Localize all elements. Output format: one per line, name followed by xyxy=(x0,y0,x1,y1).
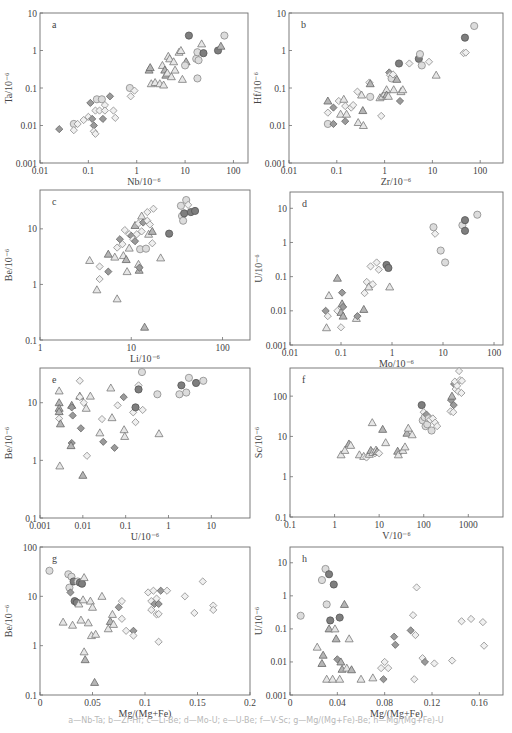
triangle-marker-icon xyxy=(69,621,77,628)
y-tick-label: 10 xyxy=(28,398,38,408)
triangle-marker-icon xyxy=(107,384,115,391)
triangle-marker-icon xyxy=(121,432,129,439)
triangle-marker-icon xyxy=(77,616,85,623)
triangle-marker-icon xyxy=(331,625,339,632)
x-tick-label: 0.1 xyxy=(82,166,94,176)
diamond-marker-icon xyxy=(130,632,137,639)
x-tick-label: 10 xyxy=(428,166,438,176)
diamond-marker-icon xyxy=(412,631,419,638)
y-axis-label: Sc/10⁻⁶ xyxy=(253,426,264,458)
y-tick-label: 0.01 xyxy=(270,657,287,667)
y-tick-label: 10 xyxy=(278,558,288,568)
triangle-marker-icon xyxy=(343,110,351,117)
circle-marker-icon xyxy=(178,382,185,389)
triangle-marker-icon xyxy=(108,414,116,421)
circle-marker-icon xyxy=(191,207,198,214)
diamond-marker-icon xyxy=(100,438,107,445)
data-points xyxy=(56,32,228,137)
diamond-marker-icon xyxy=(378,112,385,119)
triangle-marker-icon xyxy=(96,429,104,436)
diamond-marker-icon xyxy=(110,107,117,114)
y-tick-label: 10 xyxy=(278,204,288,214)
data-points xyxy=(337,367,465,461)
y-tick-label: 0.1 xyxy=(275,513,287,523)
diamond-marker-icon xyxy=(338,289,345,296)
diamond-marker-icon xyxy=(385,665,392,672)
triangle-marker-icon xyxy=(340,95,348,102)
panel-letter: c xyxy=(52,196,57,207)
diamond-marker-icon xyxy=(432,230,439,237)
circle-marker-icon xyxy=(471,22,478,29)
diamond-marker-icon xyxy=(479,619,486,626)
y-tick-label: 1 xyxy=(282,238,287,248)
panel-letter: g xyxy=(52,553,57,564)
triangle-marker-icon xyxy=(379,425,387,432)
panel-b: 0.010.11101000.0010.010.1110Zr/10⁻⁶Hf/10… xyxy=(252,9,503,188)
triangle-marker-icon xyxy=(79,471,87,478)
circle-marker-icon xyxy=(154,391,161,398)
panel-h: 00.040.080.120.160.0010.010.1110Mg/(Mg+F… xyxy=(253,547,503,720)
x-axis-label: U/10⁻⁶ xyxy=(131,531,160,542)
diamond-marker-icon xyxy=(458,618,465,625)
x-tick-label: 1 xyxy=(332,520,337,530)
triangle-marker-icon xyxy=(86,597,94,604)
panel-e: 0.0010.010.11100.1110U/10⁻⁶Be/10⁻⁶e xyxy=(3,368,250,542)
diamond-marker-icon xyxy=(324,109,331,116)
diamond-marker-icon xyxy=(105,268,112,275)
circle-marker-icon xyxy=(192,379,199,386)
diamond-marker-icon xyxy=(163,587,170,594)
data-points xyxy=(322,211,481,331)
diamond-marker-icon xyxy=(378,665,385,672)
circle-marker-icon xyxy=(323,601,330,608)
triangle-marker-icon xyxy=(368,419,376,426)
circle-marker-icon xyxy=(428,427,435,434)
diamond-marker-icon xyxy=(480,642,487,649)
x-tick-label: 100 xyxy=(487,348,502,358)
circle-marker-icon xyxy=(461,217,468,224)
triangle-marker-icon xyxy=(178,75,186,82)
x-tick-label: 1000 xyxy=(459,520,478,530)
y-tick-label: 0.001 xyxy=(266,341,288,351)
diamond-marker-icon xyxy=(330,104,337,111)
panel-g: 00.050.10.150.20.1110100Mg/(Mg+Fe)Be/10⁻… xyxy=(3,543,256,721)
y-tick-label: 0.1 xyxy=(25,514,37,524)
diamond-marker-icon xyxy=(191,609,198,616)
x-tick-label: 100 xyxy=(417,520,432,530)
x-tick-label: 1 xyxy=(166,521,171,531)
panel-letter: f xyxy=(302,374,306,385)
triangle-marker-icon xyxy=(369,674,377,681)
diamond-marker-icon xyxy=(76,394,83,401)
plot-area xyxy=(289,13,503,163)
y-tick-label: 1 xyxy=(281,46,286,56)
y-tick-label: 0.01 xyxy=(270,306,287,316)
x-tick-label: 0.2 xyxy=(244,698,256,708)
diamond-marker-icon xyxy=(373,259,380,266)
diamond-marker-icon xyxy=(120,394,127,401)
panel-letter: e xyxy=(52,374,57,385)
triangle-marker-icon xyxy=(404,424,412,431)
diamond-marker-icon xyxy=(114,402,121,409)
y-tick-label: 0.001 xyxy=(265,159,287,169)
diamond-marker-icon xyxy=(70,127,77,134)
panel-a: 0.010.11101000.0010.010.1110Nb/10⁻⁶Ta/10… xyxy=(3,9,248,188)
y-tick-label: 0.01 xyxy=(269,121,286,131)
data-points xyxy=(55,368,207,478)
y-axis-label: U/10⁻⁶ xyxy=(253,254,264,283)
circle-marker-icon xyxy=(142,245,149,252)
circle-marker-icon xyxy=(330,581,337,588)
x-tick-label: 0.04 xyxy=(329,698,346,708)
circle-marker-icon xyxy=(318,576,325,583)
y-tick-label: 0.1 xyxy=(275,272,287,282)
y-tick-label: 1 xyxy=(32,641,37,651)
diamond-marker-icon xyxy=(132,419,139,426)
circle-marker-icon xyxy=(221,32,228,39)
circle-marker-icon xyxy=(183,389,190,396)
x-tick-label: 0.01 xyxy=(75,521,92,531)
diamond-marker-icon xyxy=(99,115,106,122)
scatter-figure: 0.010.11101000.0010.010.1110Nb/10⁻⁶Ta/10… xyxy=(0,0,512,733)
y-tick-label: 100 xyxy=(23,543,38,553)
diamond-marker-icon xyxy=(199,578,206,585)
x-tick-label: 0.16 xyxy=(471,698,488,708)
diamond-marker-icon xyxy=(96,275,103,282)
diamond-marker-icon xyxy=(449,657,456,664)
